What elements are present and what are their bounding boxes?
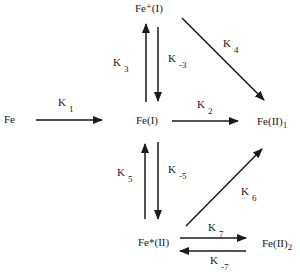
k-subscript: -3: [179, 60, 187, 70]
label-k3: K3: [113, 56, 125, 68]
node-fe-ii-2-label: Fe(II): [262, 237, 288, 249]
node-fe-plus-i: Fe⁺(I): [135, 2, 163, 15]
node-fe-label: Fe: [4, 113, 15, 125]
k-subscript: 2: [208, 106, 213, 116]
k-subscript: 6: [252, 193, 257, 203]
k-base: K: [58, 96, 66, 108]
label-k1: K1: [58, 96, 70, 108]
label-k-5: K-5: [168, 163, 183, 175]
label-k5: K5: [117, 166, 129, 178]
label-k-7: K-7: [210, 254, 225, 266]
node-fe-i-label: Fe(I): [136, 114, 158, 126]
node-fe-ii-2: Fe(II)2: [262, 237, 292, 252]
node-fe-star-ii-label: Fe*(II): [138, 236, 169, 248]
k-subscript: 5: [128, 174, 133, 184]
label-k4: K4: [223, 37, 235, 49]
arrow-k4: [182, 18, 264, 100]
node-fe-ii-1-subscript: 1: [283, 120, 288, 130]
k-subscript: -7: [221, 262, 229, 272]
k-subscript: 4: [234, 45, 239, 55]
k-subscript: 1: [69, 104, 74, 114]
label-k-3: K-3: [168, 52, 183, 64]
node-fe-ii-2-subscript: 2: [288, 242, 293, 252]
node-fe-plus-i-label: Fe⁺(I): [135, 2, 163, 14]
node-fe-ii-1-label: Fe(II): [257, 115, 283, 127]
k-base: K: [117, 166, 125, 178]
k-subscript: 3: [124, 64, 129, 74]
k-base: K: [208, 221, 216, 233]
label-k6: K6: [241, 185, 253, 197]
k-base: K: [168, 163, 176, 175]
node-fe-i: Fe(I): [136, 114, 158, 126]
label-k2: K2: [197, 98, 209, 110]
k-subscript: 7: [219, 229, 224, 239]
k-base: K: [113, 56, 121, 68]
label-k7: K7: [208, 221, 220, 233]
k-base: K: [197, 98, 205, 110]
k-subscript: -5: [179, 171, 187, 181]
node-fe-ii-1: Fe(II)1: [257, 115, 287, 130]
node-fe: Fe: [4, 113, 15, 125]
k-base: K: [223, 37, 231, 49]
k-base: K: [210, 254, 218, 266]
k-base: K: [241, 185, 249, 197]
k-base: K: [168, 52, 176, 64]
node-fe-star-ii: Fe*(II): [138, 236, 169, 248]
